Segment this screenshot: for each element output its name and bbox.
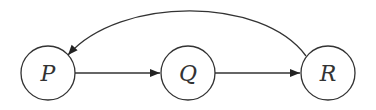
- node-p-label: P: [40, 61, 57, 86]
- node-r: R: [301, 46, 355, 100]
- node-p: P: [21, 46, 75, 100]
- node-r-label: R: [319, 61, 337, 86]
- graph-canvas: P Q R: [0, 0, 376, 110]
- node-q: Q: [161, 46, 215, 100]
- node-q-label: Q: [179, 61, 197, 86]
